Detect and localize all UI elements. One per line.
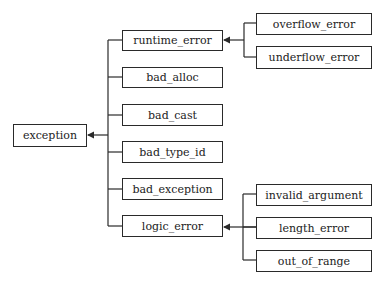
node-label: length_error [279,222,349,235]
node-label: runtime_error [133,34,212,47]
node-label: overflow_error [273,18,355,31]
node-label: bad_type_id [139,146,205,159]
node-bad-cast: bad_cast [122,104,223,126]
node-bad-exception: bad_exception [122,178,223,200]
node-label: logic_error [142,220,203,233]
exception-hierarchy-diagram: exception runtime_error bad_alloc bad_ca… [0,0,384,283]
node-bad-type-id: bad_type_id [122,141,223,163]
node-overflow-error: overflow_error [256,13,372,35]
node-bad-alloc: bad_alloc [122,67,223,88]
node-runtime-error: runtime_error [122,30,223,51]
node-length-error: length_error [256,217,372,239]
node-logic-error: logic_error [122,215,223,237]
node-label: underflow_error [269,51,360,64]
node-label: bad_alloc [146,71,199,84]
node-label: bad_exception [132,183,212,196]
node-underflow-error: underflow_error [256,46,372,69]
node-label: exception [23,129,77,142]
node-out-of-range: out_of_range [256,250,372,272]
node-label: bad_cast [148,109,197,122]
node-exception: exception [13,124,87,147]
node-invalid-argument: invalid_argument [256,184,372,206]
node-label: invalid_argument [265,189,362,202]
node-label: out_of_range [278,255,350,268]
